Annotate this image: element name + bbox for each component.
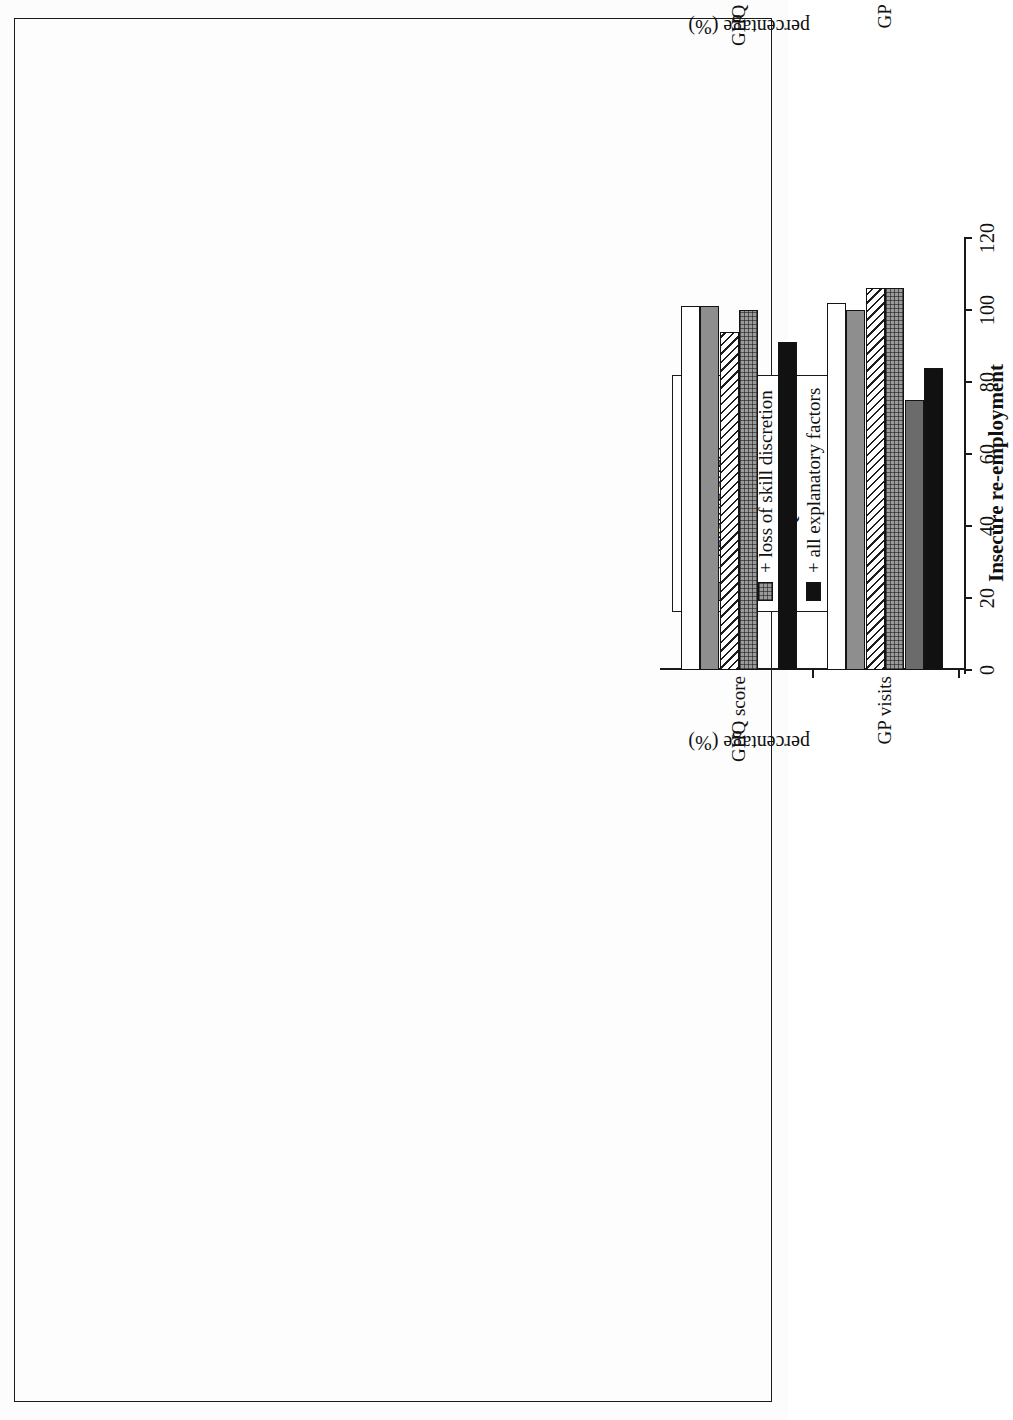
chart-body-insecure: unadjusted+ negative affect+ loss of job… [660, 202, 1013, 762]
bar [827, 303, 846, 670]
bar [778, 342, 797, 670]
value-axis-tick [964, 597, 972, 599]
bar [924, 368, 943, 670]
value-axis-tick [964, 237, 972, 239]
bar [866, 288, 885, 670]
legend-swatch-check-icon [758, 582, 773, 601]
chart-insecure-reemployment: unadjusted+ negative affect+ loss of job… [660, 202, 1013, 762]
value-axis-tick [964, 309, 972, 311]
legend-label: + loss of skill discretion [756, 390, 775, 573]
value-axis-tick-label: 20 [976, 568, 999, 628]
value-axis-tick-label: 40 [976, 496, 999, 556]
value-axis-tick [964, 669, 972, 671]
chart-body-unemployment: unadjusted+ negative affect+ financial s… [660, 0, 1013, 46]
category-label: GHQ score [728, 676, 750, 762]
value-axis-tick-label: 0 [976, 640, 999, 700]
legend-swatch-all-icon [806, 582, 821, 601]
value-axis-tick [964, 381, 972, 383]
bar [720, 332, 739, 670]
value-axis-tick-label: 80 [976, 352, 999, 412]
bar [846, 310, 865, 670]
value-axis-tick-label: 60 [976, 424, 999, 484]
bar [885, 288, 904, 670]
bar [681, 306, 700, 670]
bar [739, 310, 758, 670]
bar [905, 400, 924, 670]
category-label: GP visits [874, 0, 896, 46]
category-label: GHQ score [728, 0, 750, 46]
category-axis-tick [812, 670, 814, 678]
legend-item: + all explanatory factors [801, 388, 825, 601]
value-axis-tick-label: 120 [976, 208, 999, 268]
category-label: GP visits [874, 676, 896, 762]
value-axis-tick [964, 453, 972, 455]
figure-border [14, 18, 772, 1402]
legend-label: + all explanatory factors [804, 388, 823, 573]
value-axis-tick-label: 100 [976, 280, 999, 340]
bar [700, 306, 719, 670]
category-axis-line [964, 238, 966, 674]
chart-unemployment: unadjusted+ negative affect+ financial s… [660, 0, 1013, 46]
value-axis-tick [964, 525, 972, 527]
category-axis-tick [958, 670, 960, 678]
